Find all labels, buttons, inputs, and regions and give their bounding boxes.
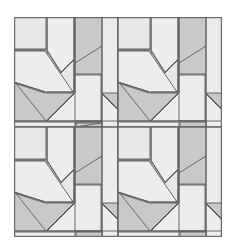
quilt-block-bottom-left (14, 127, 118, 237)
filler-square-bottom-left (118, 122, 179, 127)
base-triangle-bottom (180, 122, 206, 127)
quilt-pattern-page (0, 0, 236, 249)
quilt-frame (14, 17, 222, 237)
corner-square-top-left (118, 17, 150, 49)
quilt-block-top-left (14, 17, 118, 127)
filler-square-bottom-left (14, 122, 75, 127)
center-square (179, 185, 205, 231)
quilt-diagram (14, 17, 222, 237)
corner-square-top-left (14, 17, 46, 49)
quilt-block-top-right (118, 17, 222, 127)
corner-square-top-left (118, 127, 150, 159)
corner-square-top-left (14, 127, 46, 159)
center-square (75, 185, 101, 231)
quilt-block-bottom-right (118, 127, 222, 237)
center-square (179, 75, 205, 121)
center-square (75, 75, 101, 121)
